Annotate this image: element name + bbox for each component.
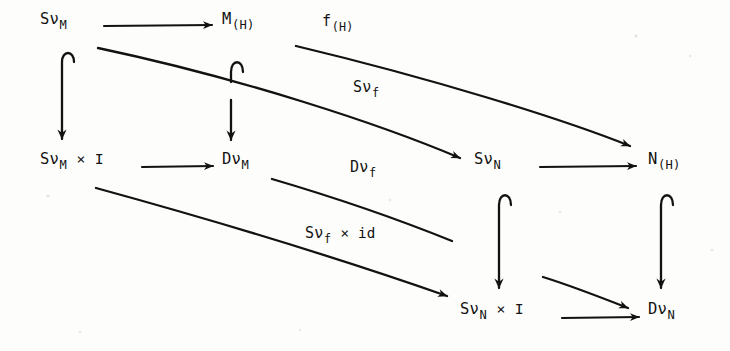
arrow-dvm-to-dvn-diagonal-part2 (543, 277, 628, 308)
arrow-svn_i-to-dvn (562, 317, 639, 318)
node-svn-times-i-suffix: × I (487, 300, 525, 317)
node-svn-sub: N (494, 158, 501, 172)
edge-label-sv-f: Sνf (353, 80, 379, 95)
node-svn-times-i: SνN × I (460, 302, 525, 318)
node-svm-base: Sν (40, 10, 59, 28)
node-svn-base: Sν (474, 150, 493, 168)
node-svm-times-i-suffix: × I (67, 150, 105, 167)
arrow-svn-to-svn_i-hook (499, 195, 511, 288)
node-dvm-base: Dν (222, 150, 241, 168)
edge-label-f-h-base: f (322, 12, 331, 30)
node-svm-times-i-base: Sν (40, 150, 59, 168)
edge-label-dv-f: Dνf (350, 160, 376, 175)
arrow-svm-to-svm_i-hook (62, 53, 74, 139)
arrow-svm-to-mh (104, 25, 212, 26)
arrow-svm-to-svn-diagonal (98, 48, 460, 158)
edge-label-sv-f-times-id: Sνf × id (305, 226, 377, 241)
node-nh-sub: (H) (658, 158, 680, 172)
node-mh: M(H) (222, 12, 254, 28)
node-mh-sub: (H) (232, 18, 254, 32)
edge-label-sv-f-times-id-base: Sν (305, 224, 323, 242)
node-dvn-sub: N (668, 308, 675, 322)
node-svm: SνM (40, 12, 67, 28)
arrow-nh-to-dvn-hook (661, 195, 673, 288)
edge-label-sv-f-base: Sν (353, 78, 371, 96)
node-svm-times-i-sub: M (60, 158, 67, 172)
node-mh-base: M (222, 10, 232, 28)
edge-label-sv-f-sub: f (372, 86, 379, 100)
node-dvm-sub: M (242, 158, 249, 172)
edge-label-sv-f-times-id-sub: f (324, 232, 331, 246)
node-svm-times-i: SνM × I (40, 152, 105, 168)
diagram-page: SνM M(H) SνM × I DνM SνN N(H) SνN × I Dν… (0, 0, 730, 351)
edge-label-f-h: f(H) (322, 14, 353, 29)
node-svn-times-i-base: Sν (460, 300, 479, 318)
node-dvn: DνN (648, 302, 675, 318)
arrow-mh-to-dvm-hook (231, 62, 243, 140)
node-nh: N(H) (648, 152, 680, 168)
edge-label-dv-f-base: Dν (350, 158, 368, 176)
edge-label-dv-f-sub: f (369, 166, 376, 180)
edge-label-f-h-sub: (H) (332, 20, 354, 34)
arrow-svn-to-nh (540, 166, 636, 167)
edge-label-sv-f-times-id-suffix: × id (331, 225, 377, 241)
node-svn-times-i-sub: N (480, 308, 487, 322)
node-dvm: DνM (222, 152, 249, 168)
arrow-mh-to-nh-diagonal (296, 46, 630, 146)
node-svn: SνN (474, 152, 501, 168)
node-nh-base: N (648, 150, 658, 168)
node-svm-sub: M (60, 18, 67, 32)
node-dvn-base: Dν (648, 300, 667, 318)
arrow-svm_i-to-svn_i-diagonal (96, 188, 447, 296)
arrow-svm_i-to-dvm (142, 166, 213, 167)
